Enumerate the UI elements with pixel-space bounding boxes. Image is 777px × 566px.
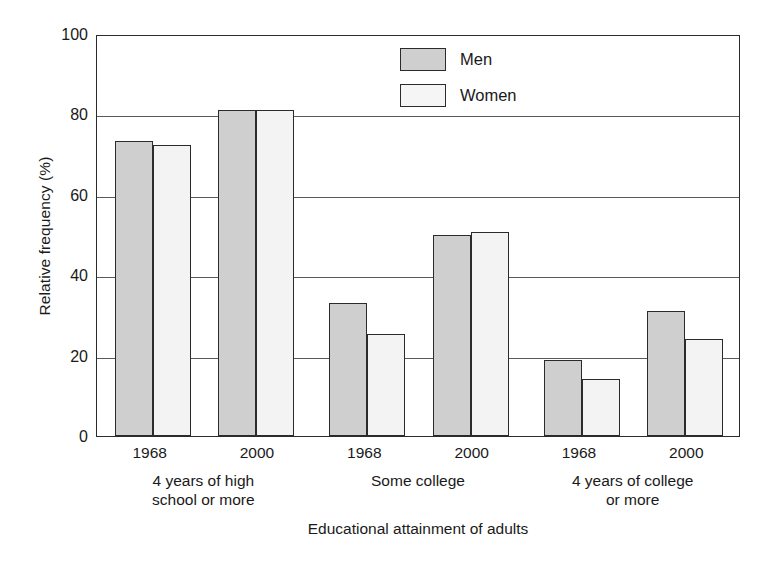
x-tick-label-year: 2000 <box>641 445 731 461</box>
x-group-label: 4 years of highschool or more <box>98 471 308 509</box>
y-tick-label: 40 <box>34 268 88 284</box>
x-group-label-line2: school or more <box>98 490 308 509</box>
bar-women <box>471 232 509 436</box>
legend-item-label: Men <box>460 51 492 68</box>
bar-women <box>685 339 723 436</box>
bar-men <box>647 311 685 436</box>
x-group-label-line1: 4 years of high <box>98 471 308 490</box>
bar-women <box>582 379 620 436</box>
gridline <box>97 116 739 117</box>
y-tick-label: 80 <box>34 107 88 123</box>
gridline <box>97 358 739 359</box>
legend-swatch-icon <box>400 84 446 107</box>
x-group-label-line1: 4 years of college <box>528 471 738 490</box>
x-tick-label-year: 2000 <box>212 445 302 461</box>
bar-men <box>218 110 256 436</box>
x-axis-title: Educational attainment of adults <box>96 521 740 537</box>
x-axis-labels: 1968200019682000196820004 years of highs… <box>96 441 740 521</box>
x-tick-label-year: 2000 <box>427 445 517 461</box>
bar-men <box>544 360 582 436</box>
legend-item-women[interactable]: Women <box>400 80 575 110</box>
bar-women <box>367 334 405 437</box>
x-group-label: Some college <box>313 471 523 490</box>
y-axis-tick-labels: 100806040200 <box>30 0 88 566</box>
bar-women <box>256 110 294 436</box>
bar-men <box>115 141 153 436</box>
x-group-label-line1: Some college <box>313 471 523 490</box>
x-tick-label-year: 1968 <box>319 445 409 461</box>
y-tick-label: 20 <box>34 349 88 365</box>
bar-women <box>153 145 191 436</box>
x-group-label: 4 years of collegeor more <box>528 471 738 509</box>
x-tick-label-year: 1968 <box>534 445 624 461</box>
bar-men <box>433 235 471 436</box>
bar-chart: Relative frequency (%) 100806040200 MenW… <box>0 0 777 566</box>
legend-item-label: Women <box>460 87 517 104</box>
x-group-label-line2: or more <box>528 490 738 509</box>
bar-men <box>329 303 367 436</box>
legend-item-men[interactable]: Men <box>400 44 575 74</box>
gridline <box>97 277 739 278</box>
legend-swatch-icon <box>400 48 446 71</box>
legend: MenWomen <box>400 44 575 116</box>
y-tick-label: 100 <box>34 27 88 43</box>
y-tick-label: 60 <box>34 188 88 204</box>
x-tick-label-year: 1968 <box>105 445 195 461</box>
y-tick-label: 0 <box>34 429 88 445</box>
gridline <box>97 197 739 198</box>
